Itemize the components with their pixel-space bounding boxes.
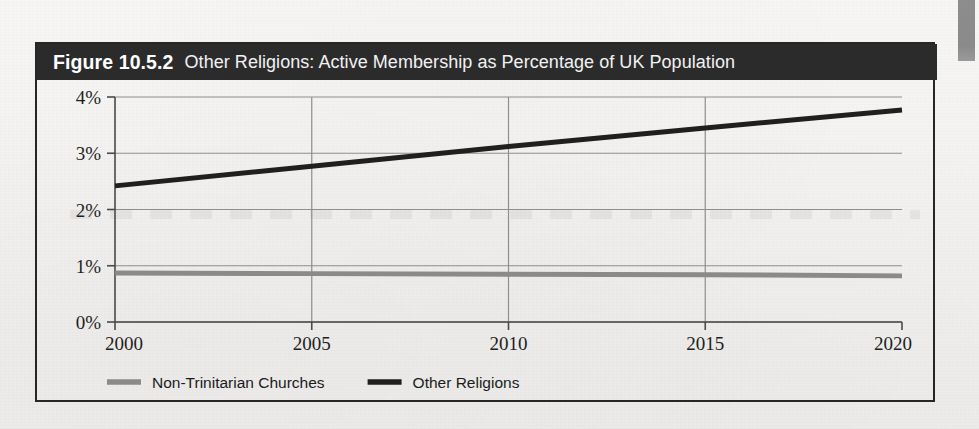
page-edge-tab	[958, 0, 975, 61]
figure-title-bar: Figure 10.5.2 Other Religions: Active Me…	[37, 44, 937, 80]
figure-title: Other Religions: Active Membership as Pe…	[185, 52, 736, 73]
x-axis	[115, 322, 902, 330]
y-axis-tick-labels: 0%1%2%3%4%	[76, 87, 102, 333]
y-axis-tick-label: 2%	[76, 200, 102, 221]
x-axis-tick-label: 2020	[874, 333, 912, 354]
y-axis	[107, 97, 115, 322]
x-axis-tick-label: 2015	[686, 333, 724, 354]
x-axis-tick-label: 2010	[490, 333, 528, 354]
y-axis-tick-label: 4%	[76, 87, 102, 108]
y-axis-tick-label: 0%	[76, 312, 102, 333]
x-axis-tick-label: 2005	[293, 333, 331, 354]
y-axis-tick-label: 3%	[76, 143, 102, 164]
figure-number: Figure 10.5.2	[53, 51, 174, 74]
series-line	[115, 273, 902, 276]
x-axis-tick-label: 2000	[105, 333, 143, 354]
figure-container: Figure 10.5.2 Other Religions: Active Me…	[35, 42, 935, 402]
chart-area: 0%1%2%3%4% 20002005201020152020 Non-Trin…	[37, 80, 933, 400]
y-axis-tick-label: 1%	[76, 256, 102, 277]
legend-label: Other Religions	[413, 374, 520, 391]
legend-label: Non-Trinitarian Churches	[152, 374, 325, 391]
chart-legend: Non-Trinitarian ChurchesOther Religions	[107, 374, 520, 391]
x-axis-tick-labels: 20002005201020152020	[105, 333, 912, 354]
line-chart: 0%1%2%3%4% 20002005201020152020 Non-Trin…	[37, 80, 933, 400]
